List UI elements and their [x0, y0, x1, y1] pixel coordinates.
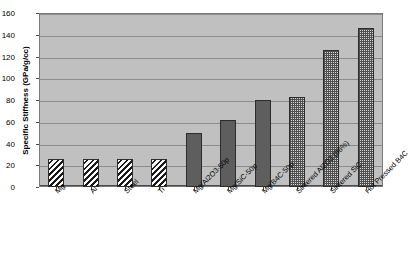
y-tick-label: 40 [0, 139, 15, 148]
bar [151, 159, 167, 187]
y-tick-label: 160 [0, 9, 15, 18]
y-axis-title: Specific Stiffness (GPa/g/cc) [21, 21, 30, 181]
bar [289, 97, 305, 187]
y-tick-label: 20 [0, 161, 15, 170]
y-tick-label: 100 [0, 74, 15, 83]
y-tick-label: 60 [0, 117, 15, 126]
bar [83, 159, 99, 187]
y-tick-label: 140 [0, 30, 15, 39]
y-tick-mark [36, 187, 39, 188]
y-tick-label: 120 [0, 52, 15, 61]
bar [220, 120, 236, 187]
y-tick-label: 0 [0, 183, 15, 192]
y-tick-label: 80 [0, 96, 15, 105]
x-axis-tick-labels: MgAlSteelTiMg/Al2O3-50pMg/SiC-50pMg/B4C-… [39, 189, 383, 267]
bar [255, 100, 271, 187]
